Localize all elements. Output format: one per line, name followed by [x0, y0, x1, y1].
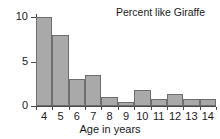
- bar-chart-figure: Percent like Giraffe 0510 45678910111213…: [0, 0, 220, 139]
- y-axis-tick-label: 0: [22, 100, 28, 111]
- x-axis-tick-label: 6: [69, 110, 85, 122]
- x-axis-tick-label: 11: [151, 110, 167, 122]
- x-axis-tick-label: 9: [118, 110, 134, 122]
- x-axis-tick-label: 10: [134, 110, 150, 122]
- bar: [118, 102, 134, 106]
- x-axis-tick-label: 4: [36, 110, 52, 122]
- x-axis-tick-label: 8: [101, 110, 117, 122]
- bar: [85, 75, 101, 106]
- bar: [52, 35, 68, 106]
- bar: [183, 99, 199, 106]
- bar: [134, 90, 150, 106]
- x-axis-tick-label: 14: [200, 110, 216, 122]
- x-axis-label: Age in years: [0, 123, 220, 135]
- y-axis-tick-label: 5: [22, 56, 28, 67]
- y-axis-tick-label: 10: [16, 11, 28, 22]
- x-axis-tick-label: 13: [183, 110, 199, 122]
- x-axis-tick-label: 5: [52, 110, 68, 122]
- chart-title: Percent like Giraffe: [116, 6, 205, 18]
- x-axis-tick: [216, 107, 217, 110]
- x-axis-tick-label: 12: [167, 110, 183, 122]
- bar: [151, 99, 167, 106]
- bar: [101, 97, 117, 106]
- x-axis-tick-label: 7: [85, 110, 101, 122]
- bar: [200, 99, 216, 106]
- x-axis-line: [36, 106, 216, 107]
- bar: [69, 79, 85, 106]
- bar: [36, 17, 52, 106]
- bar: [167, 94, 183, 106]
